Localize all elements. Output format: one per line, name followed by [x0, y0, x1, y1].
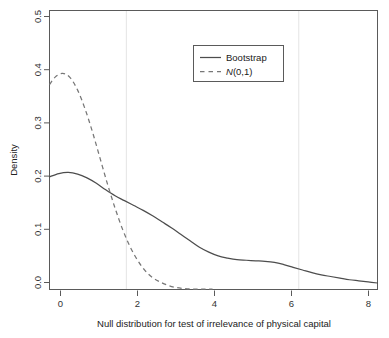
- y-tick-label-4: 0.4: [32, 63, 43, 76]
- legend[interactable]: Bootstrap N(0,1): [194, 46, 284, 82]
- y-tick-label-0: 0.0: [32, 276, 43, 289]
- y-tick-label-5: 0.5: [32, 10, 43, 23]
- y-tick-label-2: 0.2: [32, 169, 43, 182]
- legend-label-normal-rest-part: (0,1): [233, 66, 253, 77]
- density-plot-figure: 0.0 0.1 0.2 0.3 0.4 0.5 Density 0 2 4 6 …: [0, 0, 389, 338]
- y-tick-label-3: 0.3: [32, 116, 43, 129]
- x-tick-label-2: 4: [212, 298, 217, 309]
- x-axis-title: Null distribution for test of irrelevanc…: [97, 318, 331, 329]
- plot-canvas: 0.0 0.1 0.2 0.3 0.4 0.5 Density 0 2 4 6 …: [0, 0, 389, 338]
- x-tick-label-4: 8: [366, 298, 371, 309]
- y-tick-label-1: 0.1: [32, 223, 43, 236]
- x-tick-label-0: 0: [58, 298, 63, 309]
- legend-label-normal: N(0,1): [226, 66, 252, 77]
- x-tick-label-1: 2: [135, 298, 140, 309]
- legend-label-bootstrap: Bootstrap: [226, 52, 267, 63]
- y-axis-title: Density: [8, 144, 19, 176]
- x-tick-label-3: 6: [289, 298, 294, 309]
